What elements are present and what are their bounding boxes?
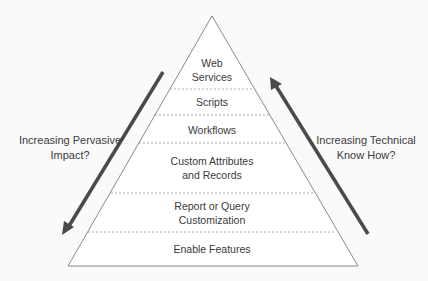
pyramid-diagram: Web Services Scripts Workflows Custom At… [0,0,428,281]
right-arrow-label: Increasing Technical Know How? [306,133,426,163]
left-arrow-label: Increasing Pervasive Impact? [8,133,132,163]
level-label: Enable Features [132,242,292,256]
left-label-line2: Impact? [8,148,132,163]
left-label-line1: Increasing Pervasive [8,133,132,148]
level-label: Report or Query [142,199,282,213]
level-label: and Records [142,168,282,182]
level-label: Scripts [162,95,262,109]
right-label-line2: Know How? [306,148,426,163]
level-scripts: Scripts [162,95,262,109]
level-web-services: Web Services [172,56,252,84]
level-label: Services [172,70,252,84]
level-workflows: Workflows [152,123,272,137]
level-label: Web [172,56,252,70]
level-report-query: Report or Query Customization [142,199,282,227]
level-label: Customization [142,213,282,227]
right-label-line1: Increasing Technical [306,133,426,148]
level-label: Workflows [152,123,272,137]
level-label: Custom Attributes [142,154,282,168]
level-custom-attributes: Custom Attributes and Records [142,154,282,182]
level-enable-features: Enable Features [132,242,292,256]
